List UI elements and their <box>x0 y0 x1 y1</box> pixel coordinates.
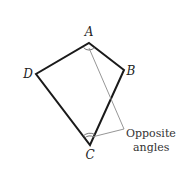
quadrilateral-abcd <box>36 43 124 145</box>
vertex-label-b: B <box>126 64 136 78</box>
vertex-label-a: A <box>84 25 94 39</box>
pointer-line-from-a <box>89 48 124 129</box>
annotation-line-2: angles <box>133 141 170 154</box>
quadrilateral-diagram: A B C D Opposite angles <box>0 0 193 170</box>
annotation-line-1: Opposite <box>126 127 176 140</box>
vertex-label-c: C <box>85 148 94 162</box>
vertex-label-d: D <box>22 67 33 81</box>
